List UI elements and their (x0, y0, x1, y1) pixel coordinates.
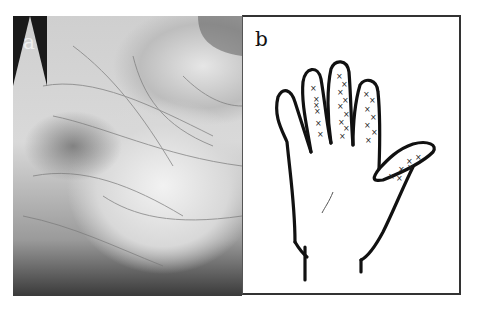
svg-text:×: × (313, 101, 320, 110)
svg-text:×: × (388, 172, 395, 181)
svg-text:×: × (364, 121, 371, 130)
svg-text:×: × (407, 163, 414, 172)
panel-b-drawing: b ××× ××× ××× ××× ××× ××× (242, 15, 461, 295)
svg-text:×: × (398, 165, 405, 174)
svg-text:×: × (396, 174, 403, 183)
svg-text:×: × (310, 84, 317, 93)
svg-text:×: × (315, 119, 322, 128)
svg-text:×: × (339, 132, 346, 141)
svg-text:×: × (371, 128, 378, 137)
svg-text:×: × (370, 113, 377, 122)
hand-outline-drawing: ××× ××× ××× ××× ××× ××× ××× × ××× ××× (243, 17, 462, 297)
palm-crease-lines (13, 16, 242, 296)
svg-text:×: × (369, 96, 376, 105)
svg-text:×: × (365, 136, 372, 145)
panel-label-a: a (23, 30, 35, 54)
panel-a-photo: a (13, 16, 242, 296)
svg-text:×: × (317, 130, 324, 139)
svg-text:×: × (415, 153, 422, 162)
